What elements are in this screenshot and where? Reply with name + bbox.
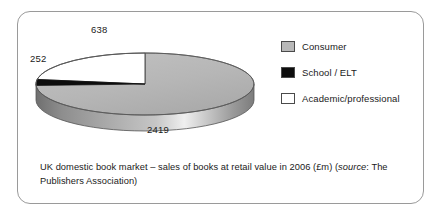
legend-item-academic: Academic/professional [281,92,421,105]
caption-line1-post: : [366,162,369,172]
figure-caption: UK domestic book market – sales of books… [40,160,395,188]
legend-swatch-consumer [281,41,295,52]
caption-line1-pre: UK domestic book market – sales of books… [40,162,338,172]
legend-label-school: School / ELT [302,67,357,78]
legend-label-consumer: Consumer [302,41,347,52]
pie-slice-academic [37,53,145,84]
caption-source-word: source [338,162,366,172]
legend-label-academic: Academic/professional [302,93,400,104]
data-label-school: 252 [30,53,46,64]
chart-plot-area: 638 252 2419 Consumer School / ELT Acade… [18,12,425,158]
legend-item-consumer: Consumer [281,40,421,53]
figure-box: 638 252 2419 Consumer School / ELT Acade… [17,11,424,204]
legend-swatch-academic [281,93,295,104]
legend-item-school: School / ELT [281,66,421,79]
chart-legend: Consumer School / ELT Academic/professio… [281,40,421,118]
data-label-academic: 638 [91,24,107,35]
legend-swatch-school [281,67,295,78]
data-label-consumer: 2419 [147,124,169,135]
